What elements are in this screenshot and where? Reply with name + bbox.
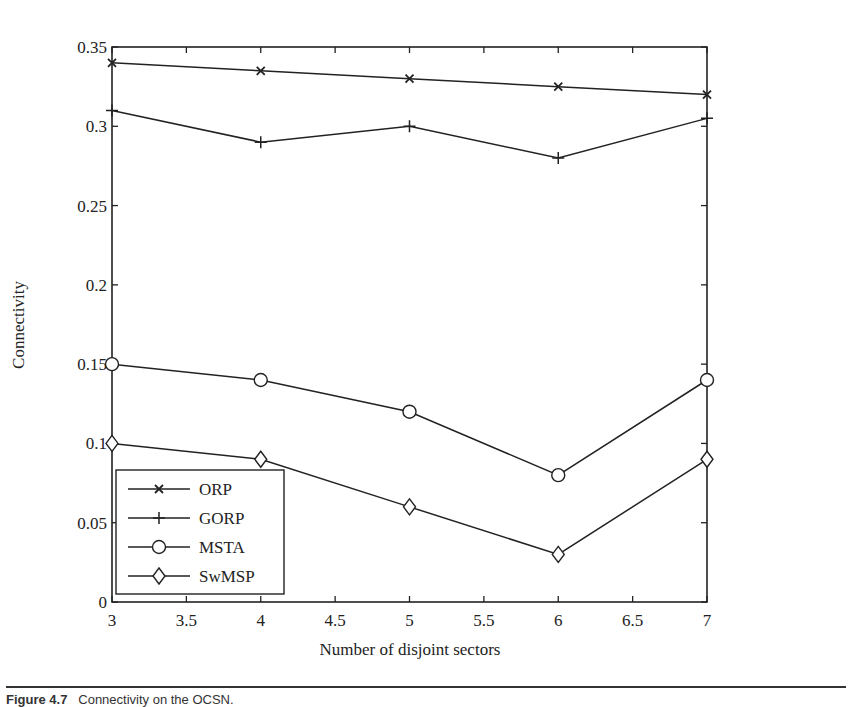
circle-marker-icon <box>403 405 416 418</box>
series-orp <box>108 59 711 99</box>
y-tick-label: 0.25 <box>77 197 107 216</box>
diamond-marker-icon <box>106 435 118 451</box>
y-tick-label: 0.05 <box>77 514 107 533</box>
y-tick-label: 0.15 <box>77 355 107 374</box>
diamond-marker-icon <box>255 451 267 467</box>
circle-marker-icon <box>552 469 565 482</box>
y-tick-label: 0.2 <box>86 276 107 295</box>
x-tick-label: 6 <box>554 611 563 630</box>
caption-divider <box>6 686 846 688</box>
legend: ORPGORPMSTASwMSP <box>116 470 284 594</box>
y-tick-label: 0.3 <box>86 117 107 136</box>
circle-marker-icon <box>254 374 267 387</box>
plus-marker-icon <box>106 104 118 116</box>
line-chart: 33.544.555.566.57 00.050.10.150.20.250.3… <box>0 0 855 690</box>
legend-label: GORP <box>199 509 244 528</box>
diamond-marker-icon <box>552 546 564 562</box>
plus-marker-icon <box>552 152 564 164</box>
x-tick-label: 3 <box>108 611 117 630</box>
legend-label: ORP <box>199 480 232 499</box>
legend-label: MSTA <box>199 538 246 557</box>
plus-marker-icon <box>255 136 267 148</box>
figure-caption-text: Connectivity on the OCSN. <box>78 692 233 707</box>
figure-number: Figure 4.7 <box>6 692 67 707</box>
x-tick-label: 6.5 <box>622 611 643 630</box>
diamond-marker-icon <box>404 499 416 515</box>
legend-label: SwMSP <box>199 567 255 586</box>
circle-marker-icon <box>701 374 714 387</box>
x-tick-label: 4 <box>257 611 266 630</box>
x-tick-label: 4.5 <box>325 611 346 630</box>
series-msta <box>106 358 714 482</box>
plus-marker-icon <box>404 120 416 132</box>
x-tick-label: 5 <box>405 611 414 630</box>
x-tick-label: 5.5 <box>473 611 494 630</box>
diamond-marker-icon <box>701 451 713 467</box>
x-axis-label: Number of disjoint sectors <box>320 640 501 659</box>
y-tick-label: 0.35 <box>77 38 107 57</box>
figure-caption: Figure 4.7 Connectivity on the OCSN. <box>6 692 234 707</box>
circle-marker-icon <box>106 358 119 371</box>
y-tick-label: 0 <box>99 593 108 612</box>
x-tick-label: 3.5 <box>176 611 197 630</box>
series-gorp <box>106 104 713 164</box>
y-axis-label: Connectivity <box>9 281 28 369</box>
x-tick-label: 7 <box>703 611 712 630</box>
circle-marker-icon <box>153 541 166 554</box>
plus-marker-icon <box>701 112 713 124</box>
y-tick-label: 0.1 <box>86 434 107 453</box>
